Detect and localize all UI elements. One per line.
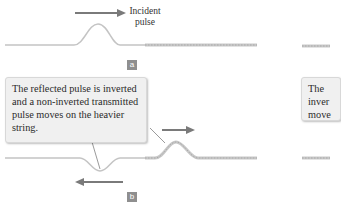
transmitted-arrow [162,126,195,134]
incident-pulse-label: Incident pulse [124,6,166,28]
incident-label-line2: pulse [124,17,166,28]
reflected-arrow [75,178,123,186]
panel-b-tag: b [127,192,137,202]
panel-b-light-string [5,158,145,171]
panel-c-partial-callout: The inver move [301,77,341,121]
panel-b-callout: The reflected pulse is inverted and a no… [5,77,147,143]
incident-label-line1: Incident [124,6,166,17]
panel-c-callout-line3: move [308,108,340,121]
panel-b-heavy-string [145,142,257,158]
panel-a-tag: a [127,60,137,70]
panel-c-callout-line1: The [308,82,340,95]
panel-c-callout-line2: inver [308,95,340,108]
incident-arrow [75,9,126,17]
